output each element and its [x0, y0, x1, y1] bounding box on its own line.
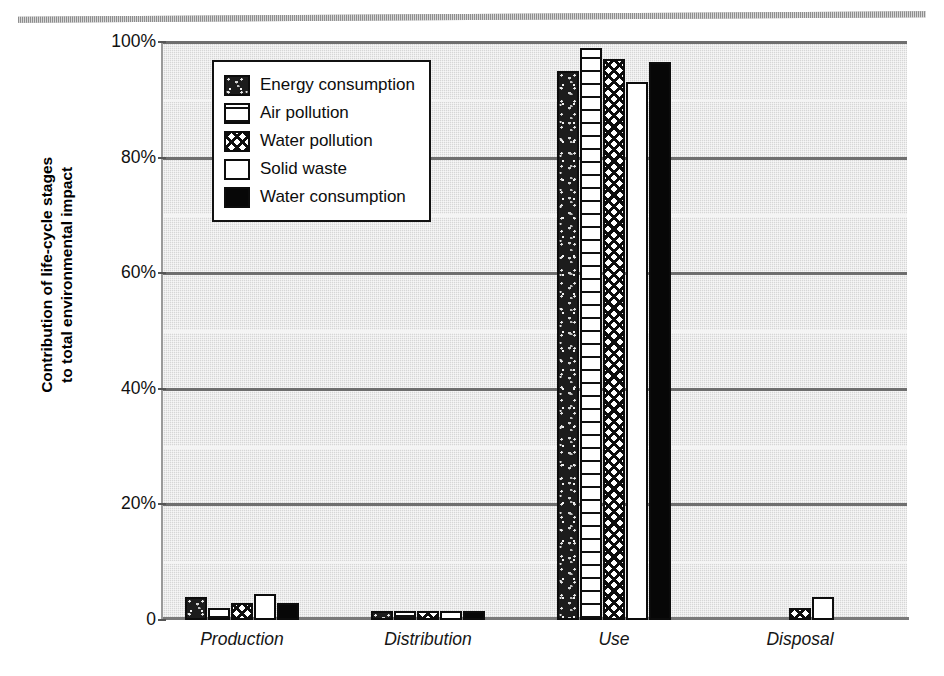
y-tick-label: 100%: [72, 31, 156, 52]
x-tick-label: Production: [155, 629, 329, 650]
bar: [231, 603, 253, 620]
legend-item: Water consumption: [224, 183, 415, 211]
bar: [812, 597, 834, 620]
bar: [417, 611, 439, 620]
y-tick-label: 20%: [72, 493, 156, 514]
x-tick-label: Distribution: [341, 629, 515, 650]
legend-swatch-icon: [224, 159, 250, 180]
bar: [789, 608, 811, 620]
legend-swatch-icon: [224, 131, 250, 152]
legend: Energy consumptionAir pollutionWater pol…: [212, 60, 431, 222]
y-tick-label: 40%: [72, 378, 156, 399]
y-tick-mark: [158, 272, 166, 274]
figure: ggg y Contribution of life-cycle stages …: [0, 0, 944, 676]
bar: [463, 611, 485, 620]
legend-item: Air pollution: [224, 99, 415, 127]
bar: [557, 71, 579, 620]
bar: [371, 611, 393, 620]
bar: [626, 82, 648, 620]
x-tick-label: Use: [527, 629, 701, 650]
legend-label: Air pollution: [260, 103, 349, 123]
bar: [580, 48, 602, 620]
bar: [208, 608, 230, 620]
legend-label: Energy consumption: [260, 75, 415, 95]
legend-label: Solid waste: [260, 159, 347, 179]
bar: [394, 611, 416, 620]
legend-item: Energy consumption: [224, 71, 415, 99]
y-tick-mark: [158, 619, 166, 621]
legend-item: Solid waste: [224, 155, 415, 183]
y-tick-mark: [158, 503, 166, 505]
x-tick-label: Disposal: [713, 629, 887, 650]
legend-swatch-icon: [224, 187, 250, 208]
y-tick-mark: [158, 388, 166, 390]
y-tick-mark: [158, 157, 166, 159]
legend-swatch-icon: [224, 103, 250, 124]
legend-swatch-icon: [224, 75, 250, 96]
y-tick-label: 0: [72, 609, 156, 630]
y-tick-mark: [158, 41, 166, 43]
y-tick-label: 60%: [72, 262, 156, 283]
legend-label: Water pollution: [260, 131, 373, 151]
bar: [649, 62, 671, 620]
bar: [277, 603, 299, 620]
bar: [254, 594, 276, 620]
y-tick-label: 80%: [72, 147, 156, 168]
bar: [440, 611, 462, 620]
bar: [185, 597, 207, 620]
bar: [603, 59, 625, 620]
legend-label: Water consumption: [260, 187, 406, 207]
legend-item: Water pollution: [224, 127, 415, 155]
y-axis-ticks: 020%40%60%80%100%: [0, 0, 944, 676]
